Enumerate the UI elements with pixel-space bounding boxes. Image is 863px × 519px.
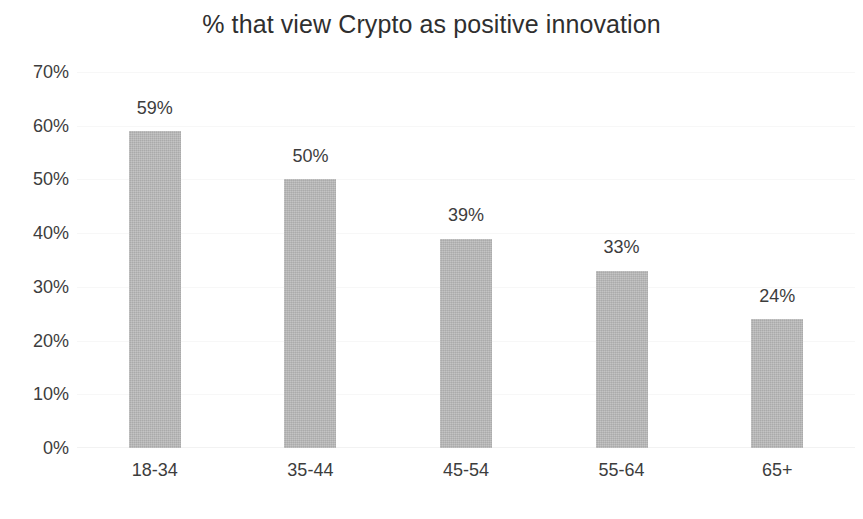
bar-value-label: 50% [292, 147, 328, 165]
y-axis-tick-label: 70% [0, 63, 69, 81]
y-axis-labels: 70% 60% 50% 40% 30% 20% 10% 0% [0, 0, 69, 519]
y-axis-tick-label: 50% [0, 170, 69, 188]
bar-slot: 33% [544, 72, 700, 448]
bar[interactable] [596, 271, 648, 448]
bar-value-label: 59% [137, 99, 173, 117]
bar[interactable] [751, 319, 803, 448]
bar-slot: 50% [233, 72, 389, 448]
x-axis-tick-label: 55-64 [544, 459, 700, 481]
bar-chart: % that view Crypto as positive innovatio… [0, 0, 863, 519]
bar-value-label: 33% [604, 238, 640, 256]
x-axis-tick-label: 18-34 [77, 459, 233, 481]
bar-slot: 39% [388, 72, 544, 448]
y-axis-tick-label: 20% [0, 332, 69, 350]
bar-value-label: 24% [759, 287, 795, 305]
x-axis-labels: 18-34 35-44 45-54 55-64 65+ [77, 459, 855, 489]
bar[interactable] [284, 179, 336, 448]
bar[interactable] [440, 239, 492, 449]
y-axis-tick-label: 10% [0, 385, 69, 403]
y-axis-tick-label: 0% [0, 439, 69, 457]
y-axis-tick-label: 60% [0, 117, 69, 135]
plot-area: 59% 50% 39% 33% 24% [77, 72, 855, 448]
bar-value-label: 39% [448, 206, 484, 224]
bar-slot: 59% [77, 72, 233, 448]
y-axis-tick-label: 30% [0, 278, 69, 296]
y-axis-tick-label: 40% [0, 224, 69, 242]
bar[interactable] [129, 131, 181, 448]
x-axis-tick-label: 35-44 [233, 459, 389, 481]
x-axis-tick-label: 45-54 [388, 459, 544, 481]
bar-slot: 24% [699, 72, 855, 448]
chart-title: % that view Crypto as positive innovatio… [0, 8, 863, 40]
x-axis-tick-label: 65+ [699, 459, 855, 481]
